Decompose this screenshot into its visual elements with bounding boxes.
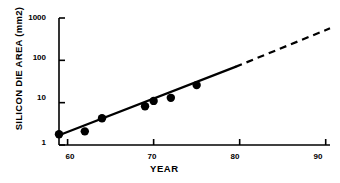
data-point — [55, 130, 63, 138]
data-point — [149, 97, 157, 105]
x-tick-label-70: 70 — [140, 152, 164, 161]
y-tick-label-100: 100 — [6, 53, 46, 62]
y-tick-label-1000: 1000 — [6, 13, 46, 22]
y-tick-label-1: 1 — [6, 138, 46, 147]
y-axis-ticks — [59, 18, 65, 145]
x-tick-label-80: 80 — [223, 152, 247, 161]
trend-line-segment — [59, 67, 235, 135]
x-tick-label-60: 60 — [58, 152, 82, 161]
x-tick-label-90: 90 — [306, 152, 330, 161]
silicon-die-area-chart: SILICON DIE AREA (mm2) YEAR 1000 100 10 … — [0, 0, 340, 183]
y-tick-label-10: 10 — [6, 93, 46, 102]
extrapolation-line — [235, 28, 330, 67]
data-point — [81, 127, 89, 135]
data-point — [98, 114, 106, 122]
data-point — [141, 102, 149, 110]
data-point — [167, 94, 175, 102]
plot-area — [0, 0, 340, 183]
x-axis-ticks — [68, 139, 326, 145]
data-point — [192, 81, 200, 89]
trend-line — [59, 67, 235, 135]
x-axis-label: YEAR — [150, 163, 179, 174]
extrapolation-line-segment — [235, 28, 330, 67]
